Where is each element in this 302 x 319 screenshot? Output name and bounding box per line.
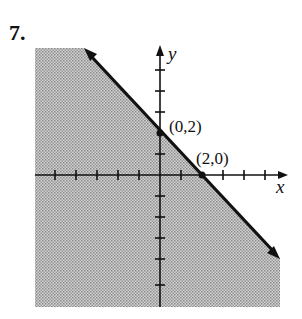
point-label-2-0: (2,0) <box>196 149 229 168</box>
point-0-2 <box>157 130 164 137</box>
inequality-graph: x y (0,2) (2,0) <box>0 0 302 319</box>
x-axis-label: x <box>275 176 285 197</box>
point-2-0 <box>199 172 206 179</box>
point-label-0-2: (0,2) <box>169 117 202 136</box>
y-axis-arrow-icon <box>156 45 164 56</box>
y-axis-label: y <box>166 43 177 64</box>
